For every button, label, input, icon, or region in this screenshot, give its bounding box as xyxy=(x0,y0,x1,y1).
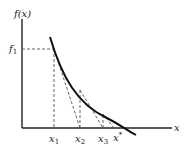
xstar-label: x* xyxy=(113,131,123,143)
x2-label: x2 xyxy=(75,133,85,146)
f1-label: f1 xyxy=(8,43,17,56)
x1-label: x1 xyxy=(49,133,59,146)
x-axis-label: x xyxy=(174,122,180,133)
function-curve xyxy=(50,37,136,135)
newton-method-diagram: f(x) x f1 x1 x2 x3 x* xyxy=(0,0,188,149)
y-axis-label: f(x) xyxy=(13,8,31,19)
x3-label: x3 xyxy=(98,133,108,146)
